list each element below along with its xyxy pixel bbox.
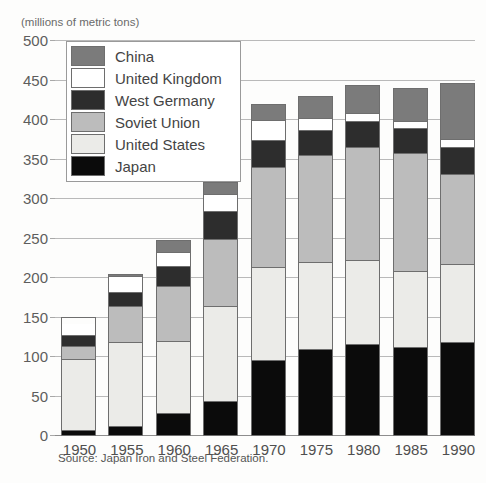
bar-1970[interactable]: 1970	[251, 104, 286, 436]
bar-segment-1965-wger[interactable]	[204, 212, 237, 239]
x-tick-label-1980: 1980	[346, 441, 381, 458]
bar-segment-1985-us[interactable]	[394, 272, 427, 347]
bar-1955[interactable]: 1955	[108, 274, 143, 436]
legend-item-label: Soviet Union	[115, 114, 200, 131]
bar-segment-1950-uk[interactable]	[62, 324, 95, 337]
legend-item-label: West Germany	[115, 92, 215, 109]
bar-segment-1985-japan[interactable]	[394, 348, 427, 435]
y-tickmark-400	[50, 119, 55, 120]
legend-swatch-uk-icon	[71, 68, 105, 88]
chart-canvas: (millions of metric tons) 05010015020025…	[0, 0, 486, 483]
legend-item-soviet: Soviet Union	[71, 111, 236, 133]
legend-item-label: China	[115, 48, 154, 65]
bar-segment-1975-china[interactable]	[299, 97, 332, 120]
legend-item-label: United States	[115, 136, 205, 153]
bar-segment-1990-wger[interactable]	[441, 148, 474, 175]
bar-segment-1980-china[interactable]	[346, 86, 379, 113]
bar-1985[interactable]: 1985	[393, 88, 428, 436]
bar-segment-1970-uk[interactable]	[252, 121, 285, 141]
bar-1975[interactable]: 1975	[298, 96, 333, 436]
y-tickmark-350	[50, 159, 55, 160]
bar-segment-1980-wger[interactable]	[346, 122, 379, 149]
bar-segment-1950-wger[interactable]	[62, 336, 95, 347]
bar-segment-1950-japan[interactable]	[62, 431, 95, 435]
bar-segment-1970-soviet[interactable]	[252, 168, 285, 268]
bar-segment-1985-china[interactable]	[394, 89, 427, 123]
bar-segment-1980-soviet[interactable]	[346, 148, 379, 260]
x-tick-label-1985: 1985	[394, 441, 429, 458]
legend-swatch-china-icon	[71, 46, 105, 66]
bar-segment-1975-japan[interactable]	[299, 350, 332, 435]
y-axis-unit-label: (millions of metric tons)	[21, 16, 139, 28]
y-tick-label-100: 100	[23, 348, 48, 365]
bar-segment-1960-wger[interactable]	[157, 267, 190, 287]
bar-segment-1960-soviet[interactable]	[157, 287, 190, 342]
bar-segment-1990-china[interactable]	[441, 84, 474, 141]
bar-segment-1975-wger[interactable]	[299, 131, 332, 156]
legend-item-label: United Kingdom	[115, 70, 222, 87]
source-note: Source: Japan Iron and Steel Federation.	[58, 452, 268, 464]
legend-item-japan: Japan	[71, 155, 236, 177]
bar-segment-1960-uk[interactable]	[157, 253, 190, 267]
bar-1965[interactable]: 1965	[203, 182, 238, 436]
bar-segment-1950-soviet[interactable]	[62, 347, 95, 360]
legend-item-label: Japan	[115, 158, 156, 175]
legend-swatch-soviet-icon	[71, 112, 105, 132]
bar-segment-1955-uk[interactable]	[109, 277, 142, 293]
bar-segment-1990-soviet[interactable]	[441, 175, 474, 265]
bar-segment-1970-wger[interactable]	[252, 141, 285, 168]
bar-segment-1975-uk[interactable]	[299, 119, 332, 131]
bar-segment-1990-japan[interactable]	[441, 343, 474, 435]
bar-segment-1955-us[interactable]	[109, 343, 142, 427]
bar-segment-1960-china[interactable]	[157, 241, 190, 253]
y-tick-label-250: 250	[23, 229, 48, 246]
bar-1950[interactable]: 1950	[61, 317, 96, 436]
legend-item-uk: United Kingdom	[71, 67, 236, 89]
bar-segment-1965-japan[interactable]	[204, 402, 237, 435]
bar-1980[interactable]: 1980	[345, 85, 380, 436]
bar-segment-1965-soviet[interactable]	[204, 240, 237, 307]
bar-segment-1975-us[interactable]	[299, 263, 332, 350]
legend-swatch-wger-icon	[71, 90, 105, 110]
bar-segment-1980-japan[interactable]	[346, 345, 379, 435]
bar-segment-1980-uk[interactable]	[346, 114, 379, 122]
y-tick-label-400: 400	[23, 111, 48, 128]
bar-segment-1980-us[interactable]	[346, 261, 379, 345]
y-tickmark-450	[50, 80, 55, 81]
bar-segment-1985-wger[interactable]	[394, 129, 427, 154]
bar-segment-1985-soviet[interactable]	[394, 154, 427, 273]
bar-segment-1975-soviet[interactable]	[299, 156, 332, 263]
y-tickmark-100	[50, 356, 55, 357]
y-tick-label-200: 200	[23, 269, 48, 286]
bar-segment-1960-us[interactable]	[157, 342, 190, 414]
bar-segment-1970-us[interactable]	[252, 268, 285, 361]
bar-segment-1965-uk[interactable]	[204, 195, 237, 212]
bar-segment-1955-japan[interactable]	[109, 427, 142, 435]
y-tick-label-500: 500	[23, 32, 48, 49]
bar-segment-1965-china[interactable]	[204, 183, 237, 196]
y-tick-label-50: 50	[31, 387, 48, 404]
bar-segment-1970-japan[interactable]	[252, 361, 285, 435]
x-tick-label-1975: 1975	[299, 441, 334, 458]
bar-segment-1960-japan[interactable]	[157, 414, 190, 435]
y-tickmark-150	[50, 317, 55, 318]
y-tick-label-350: 350	[23, 150, 48, 167]
y-tickmark-50	[50, 396, 55, 397]
y-tick-label-0: 0	[40, 427, 48, 444]
bar-segment-1955-soviet[interactable]	[109, 307, 142, 343]
legend-item-china: China	[71, 45, 236, 67]
legend-swatch-us-icon	[71, 134, 105, 154]
bar-segment-1970-china[interactable]	[252, 105, 285, 121]
bar-segment-1965-us[interactable]	[204, 307, 237, 402]
bar-1990[interactable]: 1990	[440, 83, 475, 436]
y-tick-label-150: 150	[23, 308, 48, 325]
legend-swatch-japan-icon	[71, 156, 105, 176]
bar-segment-1955-wger[interactable]	[109, 293, 142, 307]
chart-legend: ChinaUnited KingdomWest GermanySoviet Un…	[66, 41, 241, 182]
y-tickmark-0	[50, 435, 55, 436]
bar-segment-1950-us[interactable]	[62, 360, 95, 431]
bar-segment-1990-us[interactable]	[441, 265, 474, 344]
bar-1960[interactable]: 1960	[156, 240, 191, 436]
legend-item-wger: West Germany	[71, 89, 236, 111]
bar-segment-1990-uk[interactable]	[441, 140, 474, 148]
